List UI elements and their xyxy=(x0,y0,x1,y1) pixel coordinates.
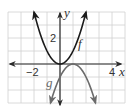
y-tick-label-2: 2 xyxy=(50,32,56,44)
grid-lines xyxy=(8,12,125,103)
x-tick-label-neg2: −2 xyxy=(26,66,39,78)
curve-g-label: g xyxy=(46,75,53,90)
coordinate-plane: y x −2 4 2 f g xyxy=(0,0,131,111)
x-tick-label-4: 4 xyxy=(109,66,115,78)
x-axis-label: x xyxy=(118,64,125,79)
y-axis-label: y xyxy=(62,5,70,20)
